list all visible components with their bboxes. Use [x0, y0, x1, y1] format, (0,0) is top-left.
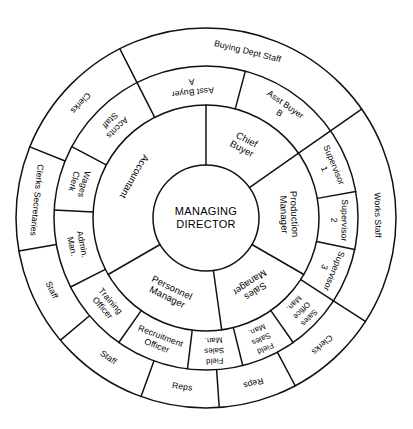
works-staff-label: Works Staff [372, 192, 383, 238]
org-chart-container: ChiefBuyerProductionManagerSalesManagerP… [0, 0, 413, 429]
circular-org-chart: ChiefBuyerProductionManagerSalesManagerP… [0, 0, 413, 429]
field-sales-man-2-label: FieldSalesMan. [203, 335, 225, 366]
managing-director-label: MANAGINGDIRECTOR [175, 205, 237, 230]
production-manager-label: ProductionManager [278, 191, 301, 238]
